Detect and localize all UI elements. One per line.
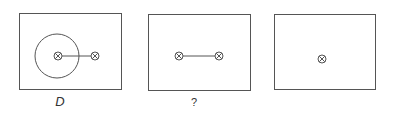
circled-times-icon (318, 55, 326, 63)
circled-times-icon (215, 52, 223, 60)
panel-d-label: D (55, 94, 64, 109)
panel-question-label: ? (191, 96, 197, 108)
panel-third (275, 15, 376, 90)
panel-d-frame (20, 14, 122, 90)
panel-third-frame (275, 15, 376, 90)
panel-question: ? (149, 15, 251, 109)
diagram-canvas: D ? (0, 0, 395, 113)
circled-times-icon (175, 52, 183, 60)
panel-question-frame (149, 15, 251, 91)
circled-times-icon (91, 52, 99, 60)
panel-d: D (20, 14, 122, 110)
circled-times-icon (54, 52, 62, 60)
